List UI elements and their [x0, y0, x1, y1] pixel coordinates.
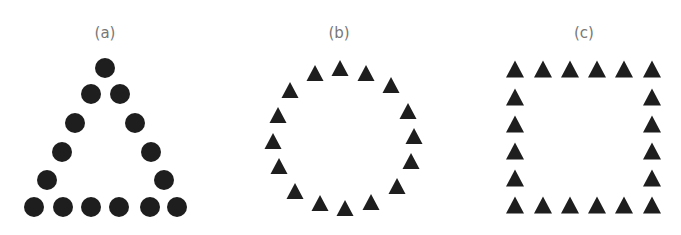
triangle-icon: [389, 178, 406, 194]
dot-circle-icon: [109, 197, 129, 217]
triangle-icon: [400, 103, 417, 119]
triangle-icon: [643, 115, 661, 132]
triangle-icon: [534, 196, 552, 213]
dot-circle-icon: [65, 113, 85, 133]
panel-b-shapes: [265, 60, 423, 216]
triangle-icon: [282, 82, 299, 98]
triangle-icon: [265, 133, 282, 149]
dot-circle-icon: [53, 197, 73, 217]
triangle-icon: [615, 60, 633, 77]
triangle-icon: [363, 194, 380, 210]
triangle-icon: [337, 200, 354, 216]
triangle-icon: [383, 77, 400, 93]
triangle-icon: [271, 158, 288, 174]
triangle-icon: [270, 107, 287, 123]
dot-circle-icon: [37, 170, 57, 190]
triangle-icon: [506, 115, 524, 132]
triangle-icon: [506, 169, 524, 186]
panel-a-label: (a): [95, 24, 116, 42]
triangle-icon: [561, 60, 579, 77]
triangle-icon: [287, 183, 304, 199]
triangle-icon: [643, 196, 661, 213]
triangle-icon: [506, 142, 524, 159]
triangle-icon: [643, 169, 661, 186]
triangle-icon: [332, 60, 349, 76]
triangle-icon: [588, 196, 606, 213]
panel-a: (a): [24, 24, 187, 217]
triangle-icon: [643, 60, 661, 77]
panel-a-shapes: [24, 58, 187, 217]
dot-circle-icon: [141, 142, 161, 162]
dot-circle-icon: [52, 142, 72, 162]
panel-b-label: (b): [328, 24, 349, 42]
triangle-icon: [506, 196, 524, 213]
triangle-icon: [615, 196, 633, 213]
triangle-icon: [506, 88, 524, 105]
panel-c-label: (c): [574, 24, 594, 42]
dot-circle-icon: [24, 197, 44, 217]
dot-circle-icon: [81, 197, 101, 217]
triangle-icon: [406, 128, 423, 144]
dot-circle-icon: [140, 197, 160, 217]
figure-canvas: (a) (b) (c): [0, 0, 681, 235]
dot-circle-icon: [167, 197, 187, 217]
panel-b: (b): [265, 24, 423, 216]
triangle-icon: [534, 60, 552, 77]
triangle-icon: [506, 60, 524, 77]
dot-circle-icon: [110, 84, 130, 104]
triangle-icon: [643, 142, 661, 159]
triangle-icon: [643, 88, 661, 105]
dot-circle-icon: [95, 58, 115, 78]
dot-circle-icon: [125, 113, 145, 133]
triangle-icon: [358, 65, 375, 81]
triangle-icon: [561, 196, 579, 213]
panel-c-shapes: [506, 60, 661, 213]
dot-circle-icon: [81, 84, 101, 104]
triangle-icon: [403, 153, 420, 169]
panel-c: (c): [506, 24, 661, 214]
dot-circle-icon: [154, 170, 174, 190]
triangle-icon: [588, 60, 606, 77]
triangle-icon: [312, 195, 329, 211]
triangle-icon: [307, 65, 324, 81]
